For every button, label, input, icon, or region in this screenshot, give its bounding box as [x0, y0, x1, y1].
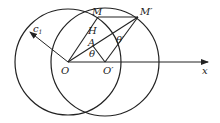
- label-theta-prime: θ′: [116, 34, 125, 45]
- label-c1: c1: [33, 23, 42, 35]
- label-O-prime: O′: [103, 65, 114, 76]
- label-M: M: [91, 6, 103, 17]
- label-x-axis: x: [202, 65, 208, 76]
- label-A: A: [87, 37, 95, 48]
- diagram-canvas: M M′ H A θ θ′ O O′ x c1: [0, 0, 220, 123]
- segment-OM-prime: [68, 17, 138, 62]
- label-O: O: [61, 65, 69, 76]
- label-M-prime: M′: [139, 6, 153, 17]
- c1-vector-arrow: [30, 32, 68, 62]
- label-theta: θ: [89, 48, 95, 59]
- geometry-diagram: M M′ H A θ θ′ O O′ x c1: [0, 0, 220, 123]
- label-c1-subscript: 1: [39, 28, 43, 35]
- label-H: H: [87, 25, 97, 36]
